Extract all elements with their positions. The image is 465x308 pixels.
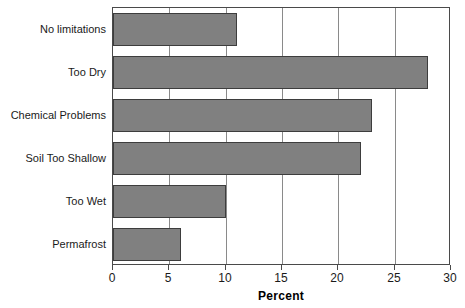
bars-layer [113, 8, 449, 264]
bar-band [113, 223, 449, 266]
category-label: Chemical Problems [11, 109, 106, 121]
category-label: Too Wet [66, 195, 106, 207]
bar-band [113, 180, 449, 223]
bar-band [113, 94, 449, 137]
bar [113, 56, 428, 89]
category-label: Too Dry [68, 66, 106, 78]
bar [113, 142, 361, 175]
x-tick-label-30: 30 [430, 271, 465, 285]
x-tick-mark-30 [450, 265, 451, 270]
category-label: No limitations [40, 23, 106, 35]
x-tick-label-10: 10 [205, 271, 245, 285]
bar [113, 228, 181, 261]
x-tick-label-15: 15 [261, 271, 301, 285]
bar [113, 185, 226, 218]
bar-band [113, 51, 449, 94]
x-tick-label-20: 20 [317, 271, 357, 285]
bar [113, 13, 237, 46]
category-label: Soil Too Shallow [25, 152, 106, 164]
x-tick-label-25: 25 [374, 271, 414, 285]
x-tick-mark-20 [337, 265, 338, 270]
x-tick-mark-0 [112, 265, 113, 270]
x-axis-title: Percent [112, 289, 450, 303]
horizontal-bar-chart: No limitationsToo DryChemical ProblemsSo… [0, 0, 465, 308]
bar-band [113, 137, 449, 180]
bar-band [113, 8, 449, 51]
x-tick-mark-15 [281, 265, 282, 270]
x-tick-mark-10 [225, 265, 226, 270]
category-label: Permafrost [52, 238, 106, 250]
x-tick-label-5: 5 [148, 271, 188, 285]
x-tick-label-0: 0 [92, 271, 132, 285]
bar [113, 99, 372, 132]
x-tick-mark-25 [394, 265, 395, 270]
x-tick-mark-5 [168, 265, 169, 270]
plot-area [112, 7, 450, 265]
